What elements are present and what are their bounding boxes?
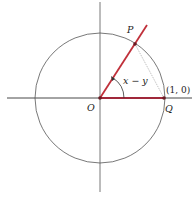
point-p: [133, 42, 137, 46]
point-o: [98, 96, 102, 100]
label-angle: x − y: [123, 75, 148, 86]
chord-pq: [135, 44, 164, 98]
ray-op: [100, 25, 147, 98]
unit-circle-diagram: P O Q x − y (1, 0): [0, 0, 194, 199]
label-q: Q: [165, 103, 173, 114]
label-o: O: [87, 102, 95, 113]
point-q: [162, 96, 166, 100]
label-p: P: [126, 24, 134, 35]
label-coordinate-q: (1, 0): [166, 85, 190, 95]
